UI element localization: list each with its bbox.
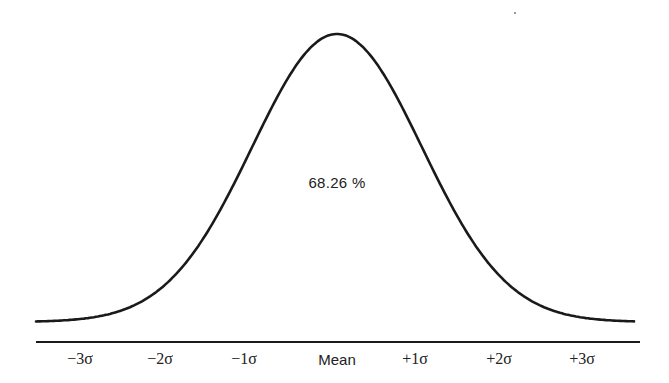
- axis-label-mean: Mean: [318, 351, 356, 368]
- area-percentage-label: 68.26 %: [289, 174, 385, 191]
- axis-label-plus-3-sigma: +3σ: [569, 350, 595, 368]
- scan-speck: [514, 12, 516, 14]
- axis-label-plus-2-sigma: +2σ: [486, 350, 512, 368]
- normal-distribution-diagram: [0, 0, 669, 383]
- axis-label-minus-1-sigma: −1σ: [231, 350, 257, 368]
- axis-label-minus-2-sigma: −2σ: [147, 350, 173, 368]
- axis-label-minus-3-sigma: −3σ: [67, 350, 93, 368]
- axis-label-plus-1-sigma: +1σ: [402, 350, 428, 368]
